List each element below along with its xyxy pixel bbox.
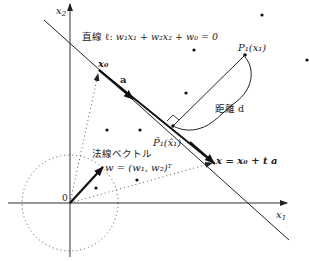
vector-a xyxy=(99,70,133,99)
line-equation-label: 直線 ℓ: w₁x₁ + w₂x₂ + w₀ = 0 xyxy=(82,31,218,42)
data-point xyxy=(192,48,195,51)
param-equation: x = x₀ + t a xyxy=(215,155,278,166)
point-foot xyxy=(171,124,175,128)
perpendicular-line xyxy=(173,55,245,126)
normal-vector-w xyxy=(70,167,103,203)
right-angle-mark xyxy=(167,115,179,121)
normal-vector-label: 法線ベクトル xyxy=(92,148,152,159)
x1-axis-label: x1 xyxy=(276,209,286,222)
data-point xyxy=(135,178,138,181)
distance-label: 距離 d xyxy=(215,103,244,114)
linear-decision-diagram: x2 x1 0 直線 ℓ: w₁x₁ + w₂x₂ + w₀ = 0 x₀ a … xyxy=(0,0,309,261)
dotted-x0-vector xyxy=(70,74,98,203)
data-point xyxy=(138,128,141,131)
data-point xyxy=(260,13,263,16)
normal-equation: w = (w₁, w₂)ᵀ xyxy=(105,162,173,173)
origin-label: 0 xyxy=(62,193,68,203)
a-label: a xyxy=(120,74,127,85)
x2-axis-label: x2 xyxy=(56,5,67,18)
data-point xyxy=(105,128,108,131)
data-point xyxy=(94,186,97,189)
x0-label: x₀ xyxy=(97,58,109,69)
param-point-arrow xyxy=(190,142,214,163)
foot-label: P̂₁(x̂₁) xyxy=(152,137,181,148)
data-point xyxy=(184,91,187,94)
p1-label: P₁(x₁) xyxy=(237,42,266,53)
line-l xyxy=(44,20,289,240)
point-p1 xyxy=(243,53,247,57)
data-point xyxy=(305,58,308,61)
